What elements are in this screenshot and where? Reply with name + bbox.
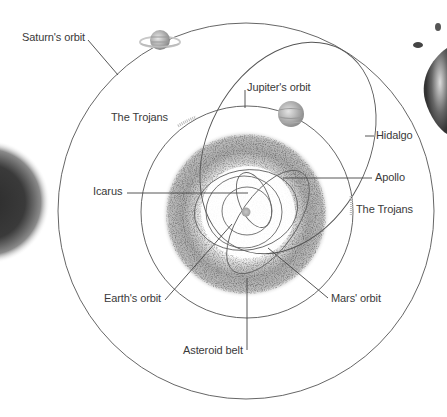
trojans-right-cluster bbox=[351, 196, 352, 216]
label-icarus: Icarus bbox=[93, 185, 122, 198]
planet-right-edge bbox=[413, 23, 447, 134]
label-mars-orbit: Mars' orbit bbox=[331, 292, 381, 305]
label-jupiter-orbit: Jupiter's orbit bbox=[247, 81, 311, 94]
label-trojans-right: The Trojans bbox=[356, 203, 413, 216]
label-apollo: Apollo bbox=[375, 171, 405, 184]
dark-planet-left bbox=[0, 140, 50, 264]
label-trojans-left: The Trojans bbox=[111, 111, 168, 124]
solar-system-diagram: Saturn's orbit Jupiter's orbit The Troja… bbox=[0, 0, 447, 417]
sun-icon bbox=[242, 208, 251, 217]
saturn-planet-icon bbox=[140, 30, 180, 50]
label-saturn-orbit: Saturn's orbit bbox=[22, 31, 85, 44]
leader-saturn-orbit bbox=[88, 40, 118, 75]
jupiter-planet-icon bbox=[278, 101, 304, 127]
label-asteroid-belt: Asteroid belt bbox=[183, 344, 243, 357]
label-earth-orbit: Earth's orbit bbox=[104, 292, 161, 305]
label-hidalgo: Hidalgo bbox=[376, 129, 413, 142]
